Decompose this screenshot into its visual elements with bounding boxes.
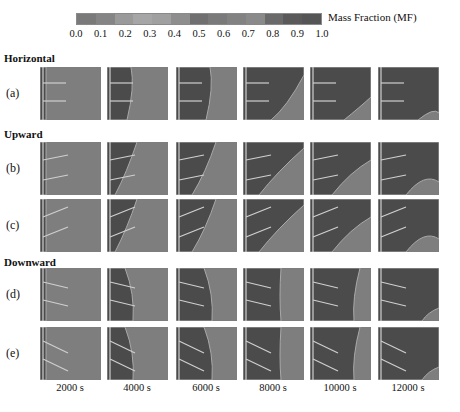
colorbar: [76, 13, 322, 25]
melt-front-plot: [378, 142, 439, 195]
melt-front-plot: [310, 67, 371, 120]
colorbar-segment: [171, 14, 190, 24]
group-label-upward: Upward: [4, 128, 43, 140]
colorbar-tick-label: 0.5: [192, 28, 205, 39]
melt-front-plot: [243, 142, 304, 195]
simulation-panel: [243, 268, 304, 321]
colorbar-segment: [208, 14, 227, 24]
simulation-panel: [40, 142, 101, 195]
melt-front-plot: [107, 327, 168, 380]
melt-front-plot: [176, 142, 237, 195]
melt-front-plot: [310, 327, 371, 380]
time-label: 2000 s: [56, 382, 84, 393]
row-label: (e): [6, 346, 19, 361]
simulation-panel: [378, 199, 439, 252]
melt-front-plot: [176, 268, 237, 321]
simulation-panel: [40, 268, 101, 321]
simulation-panel: [378, 268, 439, 321]
simulation-panel: [176, 327, 237, 380]
simulation-panel: [176, 199, 237, 252]
melt-front-plot: [107, 268, 168, 321]
colorbar-segment: [152, 14, 171, 24]
melt-front-plot: [243, 67, 304, 120]
colorbar-segment: [96, 14, 115, 24]
colorbar-label: Mass Fraction (MF): [328, 11, 417, 23]
melt-front-plot: [176, 327, 237, 380]
simulation-panel: [378, 67, 439, 120]
simulation-panel: [243, 142, 304, 195]
simulation-panel: [107, 142, 168, 195]
colorbar-ticks: 0.00.10.20.30.40.50.60.70.80.91.0: [70, 28, 332, 40]
colorbar-tick-label: 0.9: [291, 28, 304, 39]
melt-front-plot: [310, 142, 371, 195]
colorbar-tick-label: 0.4: [168, 28, 181, 39]
melt-front-plot: [378, 327, 439, 380]
row-label: (b): [6, 161, 20, 176]
simulation-panel: [176, 67, 237, 120]
figure-caption-fragment: [0, 402, 120, 412]
melt-front-plot: [243, 268, 304, 321]
melt-front-plot: [310, 199, 371, 252]
colorbar-tick-label: 0.3: [143, 28, 156, 39]
simulation-panel: [310, 67, 371, 120]
melt-front-plot: [107, 199, 168, 252]
simulation-panel: [107, 199, 168, 252]
colorbar-tick-label: 1.0: [315, 28, 328, 39]
simulation-panel: [176, 268, 237, 321]
simulation-panel: [243, 327, 304, 380]
row-label: (c): [6, 218, 19, 233]
simulation-panel: [310, 327, 371, 380]
melt-front-plot: [40, 199, 101, 252]
simulation-panel: [40, 327, 101, 380]
colorbar-segment: [115, 14, 134, 24]
colorbar-segment: [283, 14, 302, 24]
colorbar-segment: [265, 14, 284, 24]
simulation-panel: [176, 142, 237, 195]
simulation-panel: [107, 268, 168, 321]
colorbar-segment: [190, 14, 209, 24]
melt-front-plot: [107, 142, 168, 195]
simulation-panel: [243, 199, 304, 252]
melt-front-plot: [176, 67, 237, 120]
time-label: 10000 s: [324, 382, 357, 393]
time-label: 12000 s: [392, 382, 425, 393]
colorbar-tick-label: 0.1: [94, 28, 107, 39]
melt-front-plot: [107, 67, 168, 120]
melt-front-plot: [40, 67, 101, 120]
melt-front-plot: [378, 199, 439, 252]
colorbar-tick-label: 0.8: [266, 28, 279, 39]
colorbar-segment: [77, 14, 96, 24]
melt-front-plot: [40, 142, 101, 195]
colorbar-segment: [227, 14, 246, 24]
group-label-downward: Downward: [4, 256, 56, 268]
melt-front-plot: [243, 199, 304, 252]
row-label: (a): [6, 86, 19, 101]
simulation-panel: [40, 199, 101, 252]
colorbar-tick-label: 0.2: [119, 28, 132, 39]
simulation-panel: [378, 142, 439, 195]
colorbar-segment: [246, 14, 265, 24]
melt-front-plot: [310, 268, 371, 321]
group-label-horizontal: Horizontal: [4, 52, 55, 64]
simulation-panel: [378, 327, 439, 380]
simulation-panel: [310, 142, 371, 195]
simulation-panel: [243, 67, 304, 120]
time-label: 4000 s: [123, 382, 151, 393]
time-label: 8000 s: [259, 382, 287, 393]
time-label: 6000 s: [192, 382, 220, 393]
colorbar-segment: [133, 14, 152, 24]
melt-front-plot: [378, 67, 439, 120]
simulation-panel: [310, 268, 371, 321]
colorbar-tick-label: 0.6: [217, 28, 230, 39]
simulation-panel: [107, 327, 168, 380]
colorbar-segment: [302, 14, 321, 24]
colorbar-tick-label: 0.0: [69, 28, 82, 39]
melt-front-plot: [40, 327, 101, 380]
simulation-panel: [40, 67, 101, 120]
simulation-panel: [107, 67, 168, 120]
colorbar-tick-label: 0.7: [242, 28, 255, 39]
simulation-panel: [310, 199, 371, 252]
melt-front-plot: [40, 268, 101, 321]
melt-front-plot: [176, 199, 237, 252]
melt-front-plot: [243, 327, 304, 380]
